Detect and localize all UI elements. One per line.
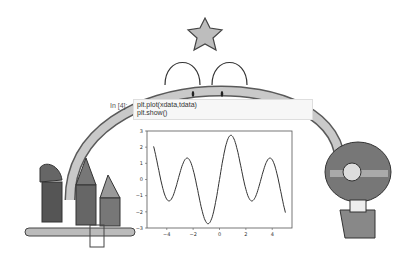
y-tick-label: 3 (140, 128, 143, 134)
y-tick-label: −2 (136, 209, 143, 215)
y-tick-label: −1 (136, 192, 143, 198)
y-tick-label: 1 (140, 160, 143, 166)
x-tick-label: 2 (244, 231, 247, 237)
x-tick-label: −4 (163, 231, 170, 237)
line-chart: 3210−1−2−3−4−2024 (0, 0, 414, 261)
x-tick-label: −2 (189, 231, 196, 237)
y-tick-label: 2 (140, 144, 143, 150)
y-tick-label: −3 (136, 225, 143, 231)
x-tick-label: 0 (218, 231, 221, 237)
x-tick-label: 4 (271, 231, 274, 237)
y-tick-label: 0 (140, 176, 143, 182)
